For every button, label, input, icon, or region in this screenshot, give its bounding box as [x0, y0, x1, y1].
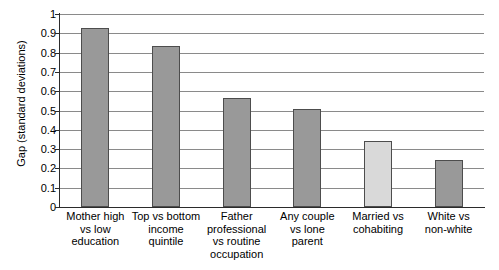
y-axis-tick-label: 0.9 [20, 28, 56, 39]
bar [81, 28, 109, 207]
y-axis-tick-label: 0.4 [20, 124, 56, 135]
bar [435, 160, 463, 207]
x-axis-category-label: Top vs bottom income quintile [131, 210, 202, 248]
y-axis-tick-mark [55, 53, 60, 54]
y-axis-tick-mark [55, 188, 60, 189]
y-axis-tick-label: 0.2 [20, 163, 56, 174]
y-axis-tick-mark [55, 72, 60, 73]
bar [364, 141, 392, 207]
y-axis-tick-label: 0.6 [20, 86, 56, 97]
y-axis-tick-label: 0.8 [20, 47, 56, 58]
y-axis-tick-mark [55, 149, 60, 150]
y-axis-tick-label: 1 [20, 9, 56, 20]
y-axis-tick-mark [55, 207, 60, 208]
y-axis-tick-mark [55, 130, 60, 131]
y-axis-tick-label: 0.5 [20, 105, 56, 116]
x-axis-category-label: White vs non-white [413, 210, 484, 235]
y-axis-tick-mark [55, 91, 60, 92]
bar [152, 46, 180, 207]
y-axis-tick-mark [55, 33, 60, 34]
y-axis-tick-label: 0 [20, 202, 56, 213]
y-axis-tick-mark [55, 14, 60, 15]
y-axis-tick-labels: 00.10.20.30.40.50.60.70.80.91 [20, 0, 56, 270]
x-axis-category-label: Married vs cohabiting [343, 210, 414, 235]
y-axis-tick-label: 0.7 [20, 66, 56, 77]
y-axis-tick-mark [55, 111, 60, 112]
y-axis-tick-label: 0.1 [20, 182, 56, 193]
x-axis-category-label: Father professional vs routine occupatio… [201, 210, 272, 260]
y-axis-tick-mark [55, 168, 60, 169]
x-axis-category-label: Mother high vs low education [60, 210, 131, 248]
y-axis-tick-label: 0.3 [20, 144, 56, 155]
bar [223, 98, 251, 207]
bar-chart: Gap (standard deviations) 00.10.20.30.40… [0, 0, 499, 270]
x-axis-category-labels: Mother high vs low educationTop vs botto… [60, 210, 484, 270]
bar [293, 109, 321, 207]
x-axis-category-label: Any couple vs lone parent [272, 210, 343, 248]
